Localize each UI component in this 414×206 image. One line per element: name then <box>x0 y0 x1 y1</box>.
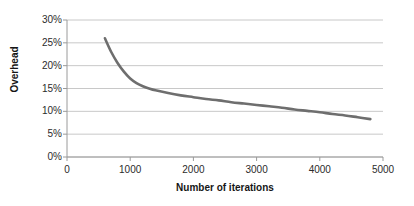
y-axis-tick-label: 15% <box>18 84 62 94</box>
x-axis-tick-label: 2000 <box>168 165 218 175</box>
x-axis-ticks <box>67 157 383 161</box>
y-axis-ticks <box>63 20 67 157</box>
y-axis-title: Overhead <box>9 40 20 100</box>
x-axis-tick-label: 1000 <box>105 165 155 175</box>
gridlines <box>67 20 383 157</box>
plot-area <box>0 0 414 206</box>
overhead-data-line <box>105 38 370 119</box>
y-axis-tick-label: 30% <box>18 15 62 25</box>
x-axis-tick-label: 5000 <box>358 165 408 175</box>
x-axis-tick-label: 3000 <box>232 165 282 175</box>
y-axis-tick-label: 0% <box>18 152 62 162</box>
y-axis-tick-label: 20% <box>18 61 62 71</box>
y-axis-tick-label: 10% <box>18 106 62 116</box>
overhead-vs-iterations-chart: 0%5%10%15%20%25%30% 01000200030004000500… <box>0 0 414 206</box>
x-axis-tick-label: 0 <box>42 165 92 175</box>
x-axis-tick-label: 4000 <box>295 165 345 175</box>
y-axis-tick-label: 25% <box>18 38 62 48</box>
y-axis-tick-label: 5% <box>18 129 62 139</box>
x-axis-title: Number of iterations <box>67 182 383 193</box>
